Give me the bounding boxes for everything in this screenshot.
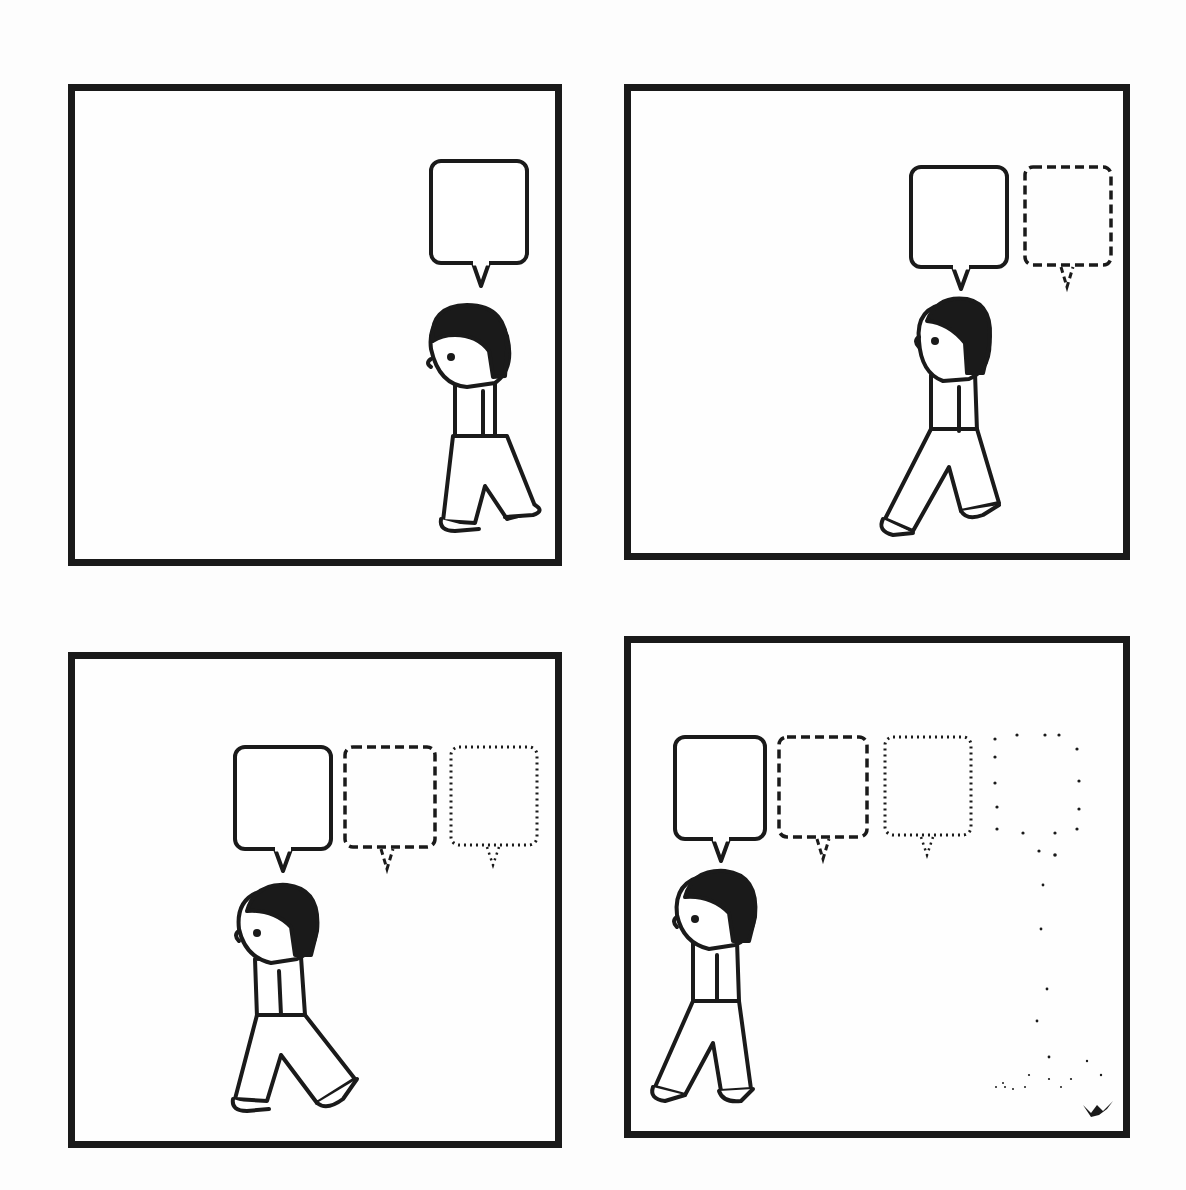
speech-bubble-solid xyxy=(911,167,1007,289)
speech-bubble-solid xyxy=(431,161,527,286)
speech-bubble-dashed xyxy=(779,737,867,859)
dot-trail xyxy=(995,884,1102,1090)
speech-bubble-dashed xyxy=(1025,167,1111,287)
speech-bubble-dotted xyxy=(451,747,537,865)
panel-1-art xyxy=(75,91,569,573)
character-walking xyxy=(233,885,357,1111)
character-walking xyxy=(652,871,755,1101)
speech-bubble-solid xyxy=(235,747,331,871)
speech-bubble-solid xyxy=(675,737,765,861)
artist-signature-icon xyxy=(1083,1101,1113,1117)
speech-bubble-dashed xyxy=(345,747,435,869)
panel-4-art xyxy=(631,643,1137,1145)
character-walking xyxy=(881,298,999,535)
comic-panel-4 xyxy=(624,636,1130,1138)
comic-panel-3 xyxy=(68,652,562,1148)
panel-3-art xyxy=(75,659,569,1155)
speech-bubble-dotted xyxy=(885,737,971,855)
panel-2-art xyxy=(631,91,1137,567)
comic-panel-2 xyxy=(624,84,1130,560)
speech-bubble-sparse-dots xyxy=(993,733,1080,856)
character-walking xyxy=(428,305,540,531)
comic-panel-1 xyxy=(68,84,562,566)
